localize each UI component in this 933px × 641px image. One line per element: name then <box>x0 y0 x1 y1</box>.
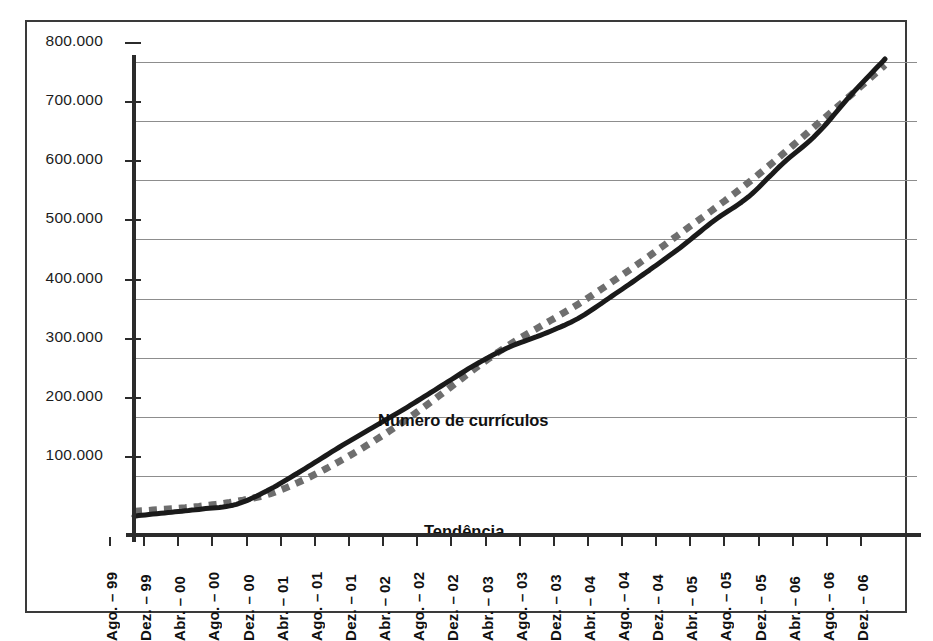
y-axis-tick-label: 800.000 <box>15 32 103 50</box>
figure-frame: 100.000200.000300.000400.000500.000600.0… <box>25 20 907 613</box>
series-annotation-curriculos: Número de currículos <box>378 411 549 430</box>
x-axis-tick-label: Abr. – 03 <box>479 545 493 641</box>
x-axis-tick-label: Dez. – 05 <box>752 545 766 641</box>
y-axis-line <box>132 55 136 542</box>
plot-area: Número de currículos Tendência <box>134 62 917 535</box>
x-axis-tick-label: Ago. – 03 <box>513 545 527 641</box>
x-axis-tick-label: Dez. – 01 <box>342 545 356 641</box>
chart-canvas <box>134 62 917 535</box>
y-axis-tick-label: 100.000 <box>15 446 103 464</box>
x-axis-tick-label: Abr. – 01 <box>274 545 288 641</box>
x-axis-tick-label: Dez. – 06 <box>854 545 868 641</box>
x-axis-tick-label: Dez. – 03 <box>547 545 561 641</box>
x-axis-tick-label: Dez. – 02 <box>444 545 458 641</box>
x-axis-tick-label: Ago. – 02 <box>410 545 424 641</box>
x-axis-tick-label: Abr. – 00 <box>171 545 185 641</box>
x-axis-tick-label: Ago. – 01 <box>308 545 322 641</box>
y-axis-tick-label: 200.000 <box>15 387 103 405</box>
x-axis-tick-label: Ago. – 05 <box>717 545 731 641</box>
y-axis-tick-label: 300.000 <box>15 328 103 346</box>
x-axis-tick-label: Ago. – 99 <box>103 545 117 641</box>
series-annotation-tendencia: Tendência <box>424 522 504 541</box>
x-axis-tick-label: Ago. – 00 <box>205 545 219 641</box>
trend-line-series <box>134 65 885 511</box>
x-axis-tick-label: Dez. – 00 <box>240 545 254 641</box>
y-axis-tick-label: 700.000 <box>15 91 103 109</box>
curriculos-line-series <box>134 59 885 516</box>
x-axis-tick-label: Ago. – 04 <box>615 545 629 641</box>
x-axis-tick-label: Abr. – 04 <box>581 545 595 641</box>
y-axis-tick-label: 400.000 <box>15 269 103 287</box>
y-axis-tick <box>125 42 141 44</box>
x-axis-tick-label: Abr. – 05 <box>683 545 697 641</box>
x-axis-tick-label: Abr. – 02 <box>376 545 390 641</box>
x-axis-tick-label: Abr. – 06 <box>786 545 800 641</box>
x-axis-tick-label: Dez. – 04 <box>649 545 663 641</box>
y-axis-tick-label: 500.000 <box>15 209 103 227</box>
x-axis-tick-label: Ago. – 06 <box>820 545 834 641</box>
x-axis-tick-label: Dez. – 99 <box>137 545 151 641</box>
y-axis-tick-label: 600.000 <box>15 150 103 168</box>
